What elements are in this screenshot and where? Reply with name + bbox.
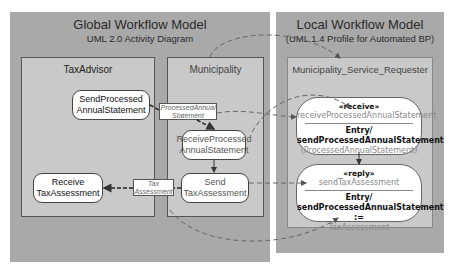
local-model-subtitle: (UML 1.4 Profile for Automated BP) [276, 33, 444, 44]
state-entry-action: sendProcessedAnnualStatement := [297, 203, 421, 223]
state-send-tax-assessment[interactable]: «reply» sendTaxAssessment Entry/ sendPro… [296, 164, 422, 222]
state-divider [305, 190, 413, 191]
state-entry-param: (ProcessedAnnualStatement) [297, 146, 421, 156]
lane-title-taxadvisor: TaxAdvisor [22, 64, 154, 75]
state-entry-label: Entry/ [297, 193, 421, 203]
action-label-line2: TaxAssessment [183, 188, 246, 199]
local-model-title: Local Workflow Model [276, 17, 444, 32]
global-model-subtitle: UML 2.0 Activity Diagram [10, 33, 270, 44]
object-node-tax-assessment[interactable]: TaxAssessment [133, 179, 174, 196]
action-label-line2: AnnualStatement [76, 105, 145, 116]
state-receive-processed-annual-statement[interactable]: «receive» receiveProcessedAnnualStatemen… [296, 97, 422, 155]
state-divider [305, 123, 413, 124]
action-label-line2: AnnualStatement [176, 145, 251, 156]
state-entry-action: sendProcessedAnnualStatement [297, 136, 421, 146]
action-label-line1: Receive [36, 177, 99, 188]
lane-title-municipality: Municipality [168, 64, 263, 75]
action-receive-processed-annual-statement[interactable]: ReceiveProcessedAnnualStatement [182, 130, 246, 160]
object-node-processed-annual-statement[interactable]: ProcessedAnnualStatement [159, 103, 217, 120]
state-name: sendTaxAssessment [297, 178, 421, 188]
state-name: receiveProcessedAnnualStatement [297, 111, 421, 121]
action-label-line1: SendProcessed [76, 94, 145, 105]
action-label-line1: Send [183, 177, 246, 188]
action-receive-tax-assessment[interactable]: ReceiveTaxAssessment [33, 173, 103, 203]
state-stereotype: «receive» [297, 102, 421, 111]
object-label-line1: Tax [134, 180, 172, 188]
state-entry-label: Entry/ [297, 126, 421, 136]
object-label-line2: Statement [161, 112, 216, 120]
action-send-processed-annual-statement[interactable]: SendProcessedAnnualStatement [72, 90, 150, 120]
action-label-line1: ReceiveProcessed [176, 134, 251, 145]
lane-title-service-requester: Municipality_Service_Requester [288, 64, 432, 75]
state-stereotype: «reply» [297, 169, 421, 178]
global-model-title: Global Workflow Model [10, 17, 270, 32]
state-entry-param: TaxAssessment [297, 223, 421, 233]
action-label-line2: TaxAssessment [36, 188, 99, 199]
object-label-line1: ProcessedAnnual [161, 104, 216, 112]
object-label-line2: Assessment [134, 188, 172, 196]
action-send-tax-assessment[interactable]: SendTaxAssessment [181, 173, 249, 203]
